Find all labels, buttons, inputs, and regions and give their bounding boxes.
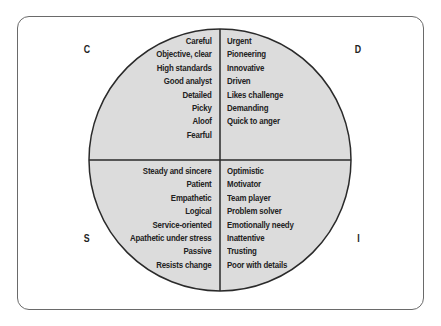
trait-item: Quick to anger	[227, 114, 283, 127]
trait-item: Service-oriented	[130, 218, 212, 231]
trait-item: Optimistic	[227, 164, 294, 177]
trait-item: Picky	[156, 101, 212, 114]
disc-circle	[0, 0, 441, 326]
trait-item: Pioneering	[227, 47, 283, 60]
traits-list-c: Careful Objective, clear High standards …	[156, 34, 212, 141]
trait-item: Demanding	[227, 101, 283, 114]
trait-item: Emotionally needy	[227, 218, 294, 231]
trait-item: Logical	[130, 204, 212, 217]
traits-list-i: Optimistic Motivator Team player Problem…	[227, 164, 294, 271]
trait-item: Good analyst	[156, 74, 212, 87]
trait-item: Resists change	[130, 258, 212, 271]
trait-item: Urgent	[227, 34, 283, 47]
trait-item: Empathetic	[130, 191, 212, 204]
trait-item: Passive	[130, 244, 212, 257]
trait-item: Objective, clear	[156, 47, 212, 60]
quadrant-label-c: C	[84, 43, 90, 55]
trait-item: Fearful	[156, 128, 212, 141]
trait-item: Patient	[130, 177, 212, 190]
trait-item: Problem solver	[227, 204, 294, 217]
trait-item: Likes challenge	[227, 88, 283, 101]
trait-item: Innovative	[227, 61, 283, 74]
trait-item: Driven	[227, 74, 283, 87]
traits-list-d: Urgent Pioneering Innovative Driven Like…	[227, 34, 283, 128]
trait-item: Careful	[156, 34, 212, 47]
quadrant-label-i: I	[357, 232, 359, 244]
quadrant-label-d: D	[355, 43, 361, 55]
trait-item: Team player	[227, 191, 294, 204]
trait-item: Inattentive	[227, 231, 294, 244]
trait-item: High standards	[156, 61, 212, 74]
trait-item: Apathetic under stress	[130, 231, 212, 244]
quadrant-label-s: S	[84, 232, 90, 244]
trait-item: Trusting	[227, 244, 294, 257]
trait-item: Motivator	[227, 177, 294, 190]
trait-item: Poor with details	[227, 258, 294, 271]
trait-item: Detailed	[156, 88, 212, 101]
trait-item: Aloof	[156, 114, 212, 127]
trait-item: Steady and sincere	[130, 164, 212, 177]
traits-list-s: Steady and sincere Patient Empathetic Lo…	[130, 164, 212, 271]
